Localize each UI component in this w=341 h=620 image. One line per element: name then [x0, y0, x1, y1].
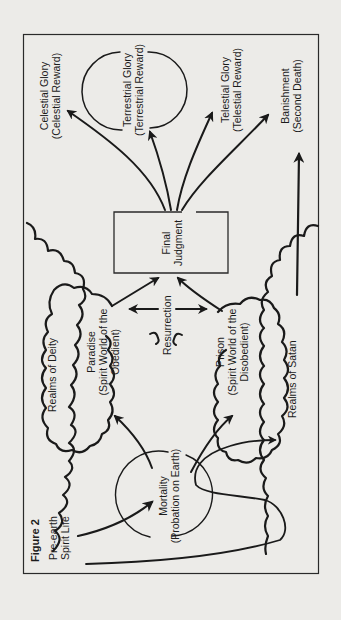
arrow-paradise-to-judgment: [112, 278, 158, 306]
svg-text:Terrestrial Glory: Terrestrial Glory: [121, 52, 133, 127]
label-resurrection: Resurrection: [161, 295, 173, 355]
arrow-mortality-to-prison: [191, 416, 232, 472]
label-mortality: Mortality (Probation on Earth): [157, 449, 181, 544]
figure-2-diagram: Figure 2 Pre-earth Spirit Life Mortality…: [0, 0, 341, 620]
svg-text:(Telestial Reward): (Telestial Reward): [231, 48, 243, 132]
svg-text:Telestial Glory: Telestial Glory: [219, 56, 231, 123]
svg-text:Pre-earth: Pre-earth: [47, 516, 59, 560]
arrow-mortality-to-paradise: [115, 416, 152, 468]
svg-text:Celestial Glory: Celestial Glory: [38, 61, 50, 130]
figure-title: Figure 2: [29, 519, 41, 562]
svg-text:Final: Final: [160, 232, 172, 255]
svg-text:Disobedient): Disobedient): [238, 323, 250, 382]
label-telestial: Telestial Glory (Telestial Reward): [219, 48, 243, 132]
arrow-satan-to-banishment: [297, 154, 299, 295]
arrow-to-banishment: [182, 115, 268, 210]
svg-text:(Second Death): (Second Death): [291, 59, 303, 133]
label-final-judgment: Final Judgment: [160, 220, 184, 266]
svg-text:Banishment: Banishment: [279, 68, 291, 124]
label-realms-of-deity: Realms of Deity: [46, 337, 58, 412]
label-realms-of-satan: Realms of Satan: [286, 340, 298, 418]
label-celestial: Celestial Glory (Celestial Reward): [38, 53, 62, 139]
label-prison: Prison (Spirit World of the Disobedient): [214, 308, 250, 395]
label-banishment: Banishment (Second Death): [279, 59, 303, 133]
svg-text:Spirit Life: Spirit Life: [59, 516, 71, 560]
svg-text:Judgment: Judgment: [172, 220, 184, 266]
svg-text:(Terrestrial Reward): (Terrestrial Reward): [133, 44, 145, 136]
label-terrestrial: Terrestrial Glory (Terrestrial Reward): [121, 44, 145, 136]
svg-text:(Celestial Reward): (Celestial Reward): [50, 53, 62, 139]
svg-text:(Probation on Earth): (Probation on Earth): [169, 449, 181, 544]
svg-text:Prison: Prison: [214, 337, 226, 367]
arrow-preearth-to-mortality: [78, 502, 152, 536]
svg-text:Mortality: Mortality: [157, 475, 169, 515]
svg-text:(Spirit World of the: (Spirit World of the: [226, 308, 238, 395]
arrow-to-telestial: [177, 113, 212, 210]
svg-text:(Spirit World of the: (Spirit World of the: [97, 308, 109, 395]
arrow-to-celestial: [68, 111, 165, 210]
label-pre-earth: Pre-earth Spirit Life: [47, 516, 71, 560]
svg-text:Obedient): Obedient): [109, 329, 121, 375]
label-paradise: Paradise (Spirit World of the Obedient): [85, 308, 121, 395]
svg-text:Paradise: Paradise: [85, 331, 97, 373]
arrow-prison-to-judgment: [178, 278, 222, 311]
